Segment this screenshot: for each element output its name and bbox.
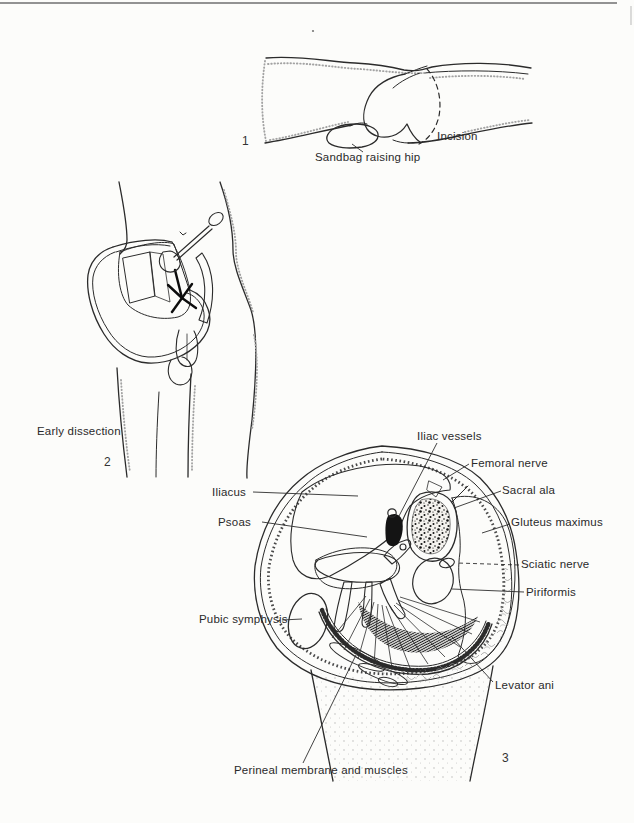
fig3-iliac-vein (385, 514, 402, 546)
label-pubic-symphysis: Pubic symphysis (199, 613, 288, 626)
label-gluteus-maximus: Gluteus maximus (511, 516, 603, 529)
label-iliacus: Iliacus (212, 486, 246, 499)
fig3-psoas-muscle (315, 548, 397, 589)
fig2-navel (180, 232, 186, 235)
scan-speck (312, 30, 314, 32)
figure2-number: 2 (104, 456, 111, 469)
label-psoas: Psoas (218, 516, 251, 529)
fig1-body-bottom-contour (265, 125, 352, 143)
fig2-right-leg-inner (188, 374, 191, 477)
fig2-torso-right (220, 182, 256, 478)
label-incision: Incision (437, 130, 478, 143)
figure2-caption: Early dissection (37, 425, 121, 438)
fig2-left-leg (117, 368, 127, 477)
fig2-muscle-block (123, 252, 155, 303)
figure1-drawing (262, 57, 532, 152)
page-rule (0, 3, 631, 32)
label-iliac-vessels: Iliac vessels (417, 430, 482, 443)
figure3-drawing (253, 443, 524, 781)
label-levator-ani: Levator ani (495, 679, 554, 692)
illustration-canvas (0, 0, 634, 823)
figure1-number: 1 (242, 135, 249, 148)
figure3-number: 3 (502, 752, 509, 765)
label-sacral-ala: Sacral ala (502, 484, 555, 497)
fig1-trochanter-flap (364, 74, 420, 142)
fig2-wound-cavity (118, 242, 190, 318)
fig2-wound-hinge (113, 240, 172, 247)
label-sciatic-nerve: Sciatic nerve (521, 558, 589, 571)
label-femoral-nerve: Femoral nerve (471, 457, 548, 470)
label-perineal-membrane: Perineal membrane and muscles (234, 764, 408, 777)
label-piriformis: Piriformis (526, 586, 576, 599)
fig2-retractor-handle (174, 226, 209, 257)
label-sandbag: Sandbag raising hip (315, 151, 420, 164)
